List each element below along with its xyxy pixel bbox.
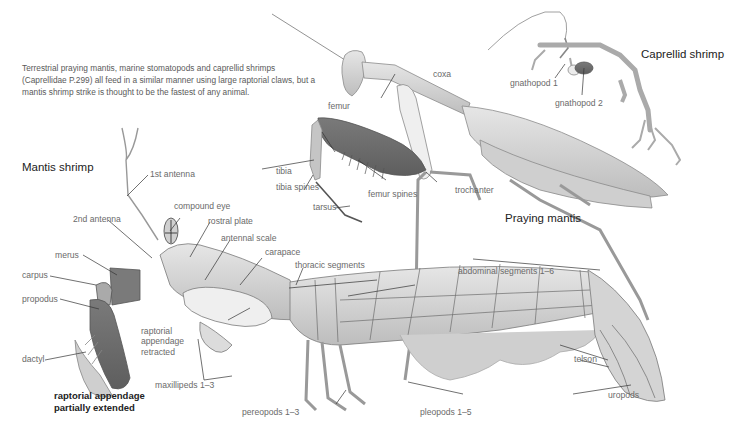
raptorial-appendage-extended-drawing xyxy=(75,268,140,397)
label-pereopods: pereopods 1–3 xyxy=(242,408,299,417)
label-raptorial-appendage-retracted: raptorial appendage retracted xyxy=(141,326,184,357)
label-tibia: tibia xyxy=(276,167,292,176)
label-trochanter: trochanter xyxy=(455,186,494,195)
label-uropods: uropods xyxy=(608,391,639,400)
label-carpus: carpus xyxy=(22,271,48,280)
raptorial-appendage-caption: raptorial appendage partially extended xyxy=(54,390,145,414)
label-1st-antenna: 1st antenna xyxy=(150,170,195,179)
label-femur: femur xyxy=(328,102,350,111)
label-raptorial-line1: raptorial xyxy=(141,326,184,336)
label-2nd-antenna: 2nd antenna xyxy=(73,215,121,224)
label-raptorial-line3: retracted xyxy=(141,347,184,357)
illustration-canvas: Terrestrial praying mantis, marine stoma… xyxy=(0,0,734,443)
label-femur-spines: femur spines xyxy=(368,190,417,199)
label-thoracic-segments: thoracic segments xyxy=(295,261,365,270)
label-carapace: carapace xyxy=(265,248,300,257)
label-dactyl: dactyl xyxy=(22,355,44,364)
label-antennal-scale: antennal scale xyxy=(221,234,276,243)
caption-line2: partially extended xyxy=(54,402,145,414)
label-rostral-plate: rostral plate xyxy=(208,217,253,226)
label-merus: merus xyxy=(55,251,79,260)
caprellid-shrimp-title: Caprellid shrimp xyxy=(641,48,724,60)
label-coxa: coxa xyxy=(433,70,451,79)
label-tibia-spines: tibia spines xyxy=(276,183,319,192)
label-propodus: propodus xyxy=(22,295,58,304)
label-compound-eye: compound eye xyxy=(174,202,230,211)
mantis-shrimp-title: Mantis shrimp xyxy=(22,161,94,173)
label-pleopods: pleopods 1–5 xyxy=(420,408,472,417)
label-gnathopod-2: gnathopod 2 xyxy=(555,99,603,108)
caption-line1: raptorial appendage xyxy=(54,390,145,402)
label-telson: telson xyxy=(574,355,597,364)
label-maxillipeds: maxillipeds 1–3 xyxy=(155,381,214,390)
label-gnathopod-1: gnathopod 1 xyxy=(510,79,558,88)
label-abdominal-segments: abdominal segments 1–6 xyxy=(458,267,554,276)
praying-mantis-title: Praying mantis xyxy=(505,212,581,224)
intro-paragraph: Terrestrial praying mantis, marine stoma… xyxy=(22,62,322,98)
label-raptorial-line2: appendage xyxy=(141,336,184,346)
label-tarsus: tarsus xyxy=(313,203,336,212)
